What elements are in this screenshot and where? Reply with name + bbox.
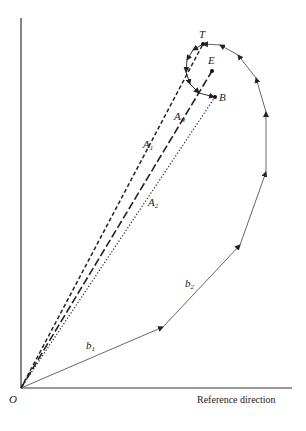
label-origin: O xyxy=(9,393,17,405)
vector-b1 xyxy=(21,327,163,388)
point-T xyxy=(201,42,205,46)
label-b1: b1 xyxy=(86,339,95,353)
vector-b7 xyxy=(220,45,238,55)
vector-A2 xyxy=(21,97,215,388)
vector-A1 xyxy=(21,44,203,388)
vector-loop xyxy=(186,44,214,97)
label-B: B xyxy=(219,91,226,103)
label-A2: A2 xyxy=(147,196,159,210)
point-E xyxy=(210,69,214,73)
vector-chain xyxy=(21,44,266,388)
point-B xyxy=(213,95,217,99)
vector-b2 xyxy=(163,245,240,327)
label-AR: AR xyxy=(173,110,186,124)
phasor-diagram: T E B AR A1 A2 b2 b1 O Reference directi… xyxy=(0,0,306,431)
vector-b6 xyxy=(238,55,256,78)
label-T: T xyxy=(199,28,206,40)
label-E: E xyxy=(207,54,215,66)
vector-b8 xyxy=(203,44,220,45)
label-reference-direction: Reference direction xyxy=(197,394,276,405)
label-b2: b2 xyxy=(185,277,195,291)
vector-b5 xyxy=(256,78,266,112)
vector-b3 xyxy=(240,172,266,245)
